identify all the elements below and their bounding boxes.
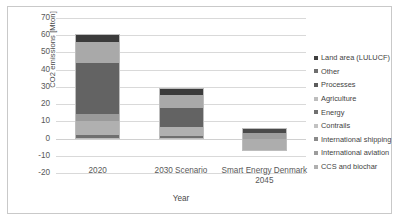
- legend-label: Contrails: [321, 121, 350, 130]
- legend-swatch-icon: [314, 69, 318, 73]
- legend-swatch-icon: [314, 165, 318, 169]
- x-axis-tick-line: 2030 Scenario: [136, 166, 226, 176]
- x-axis-tick: 2020: [53, 166, 143, 176]
- legend-label: CCS and biochar: [321, 162, 377, 171]
- legend-item-4[interactable]: Energy: [314, 105, 399, 119]
- legend-swatch-icon: [314, 83, 318, 87]
- legend-item-3[interactable]: Agriculture: [314, 92, 399, 106]
- x-axis-tick-line: 2045: [219, 176, 309, 186]
- chart-container: CO2 emissions [Mton] 706050403020100-10-…: [7, 6, 392, 214]
- x-axis-tick-line: Smart Energy Denmark: [219, 166, 309, 176]
- legend-label: Processes: [321, 80, 356, 89]
- legend-swatch-icon: [314, 97, 318, 101]
- legend-item-6[interactable]: International shipping: [314, 133, 399, 147]
- legend-item-8[interactable]: CCS and biochar: [314, 160, 399, 174]
- legend-item-1[interactable]: Other: [314, 65, 399, 79]
- legend-label: Other: [321, 67, 339, 76]
- x-axis-tick-line: 2020: [53, 166, 143, 176]
- legend-label: Energy: [321, 108, 344, 117]
- legend-item-7[interactable]: International aviation: [314, 146, 399, 160]
- legend-item-2[interactable]: Processes: [314, 78, 399, 92]
- legend-swatch-icon: [314, 124, 318, 128]
- legend-label: International aviation: [321, 148, 389, 157]
- chart-legend: Land area (LULUCF)OtherProcessesAgricult…: [314, 51, 399, 173]
- legend-swatch-icon: [314, 56, 318, 60]
- legend-swatch-icon: [314, 110, 318, 114]
- legend-label: Land area (LULUCF): [321, 53, 390, 62]
- x-axis-tick: Smart Energy Denmark2045: [219, 166, 309, 186]
- legend-swatch-icon: [314, 151, 318, 155]
- legend-label: International shipping: [321, 135, 391, 144]
- x-axis-title: Year: [56, 194, 306, 203]
- legend-item-0[interactable]: Land area (LULUCF): [314, 51, 399, 65]
- legend-swatch-icon: [314, 137, 318, 141]
- x-axis-tick: 2030 Scenario: [136, 166, 226, 176]
- legend-item-5[interactable]: Contrails: [314, 119, 399, 133]
- legend-label: Agriculture: [321, 94, 356, 103]
